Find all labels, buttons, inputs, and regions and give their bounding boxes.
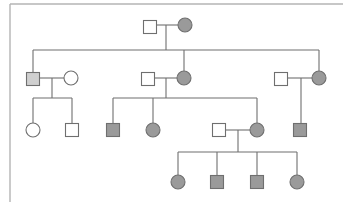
- pedigree-diagram: [0, 0, 343, 202]
- male-square-IV-2: [211, 176, 224, 189]
- individuals: [26, 18, 326, 189]
- male-square-III-2: [66, 124, 79, 137]
- male-square-IV-3: [251, 176, 264, 189]
- male-square-II-5: [275, 73, 288, 86]
- female-circle-IV-1: [171, 175, 185, 189]
- female-circle-III-1: [26, 123, 40, 137]
- female-circle-II-4: [177, 71, 191, 85]
- relationship-lines: [33, 25, 319, 176]
- female-circle-III-4: [146, 123, 160, 137]
- female-circle-II-6: [312, 71, 326, 85]
- male-square-III-3: [107, 124, 120, 137]
- male-square-II-1: [27, 73, 40, 86]
- frame: [10, 4, 343, 202]
- male-square-III-7: [294, 124, 307, 137]
- male-square-I-1: [144, 21, 157, 34]
- female-circle-IV-4: [290, 175, 304, 189]
- male-square-III-5: [213, 124, 226, 137]
- female-circle-II-2: [64, 71, 78, 85]
- female-circle-III-6: [250, 123, 264, 137]
- female-circle-I-2: [178, 18, 192, 32]
- male-square-II-3: [142, 73, 155, 86]
